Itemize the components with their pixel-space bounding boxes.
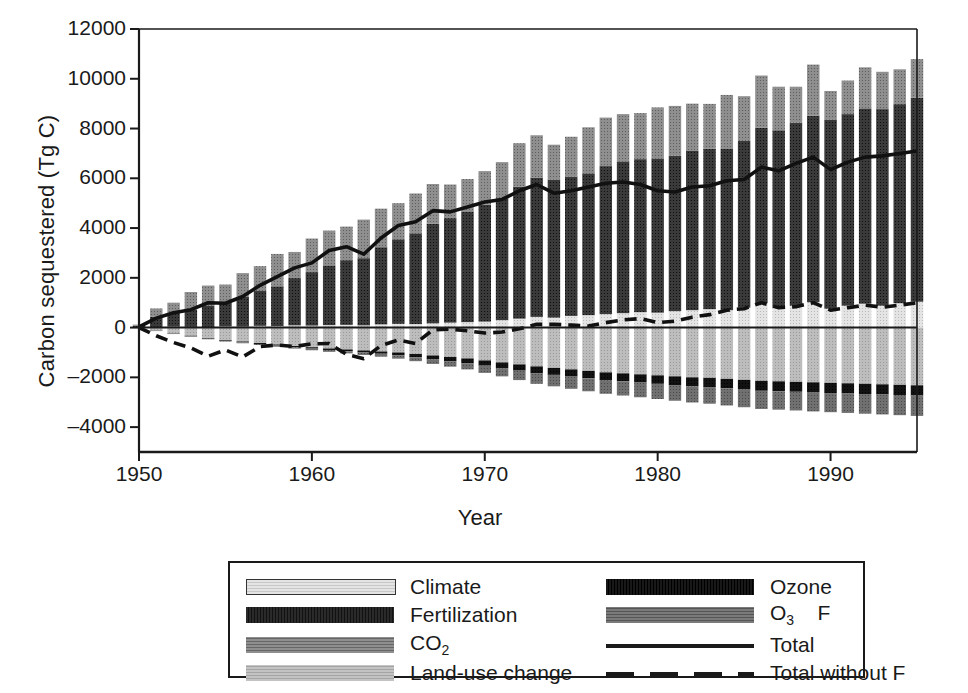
bar-stack bbox=[634, 113, 646, 397]
bar-segment bbox=[807, 382, 819, 392]
bar-stack bbox=[617, 114, 629, 395]
bar-segment bbox=[721, 379, 733, 388]
bar-stack bbox=[790, 87, 802, 411]
bar-segment bbox=[669, 106, 681, 156]
bar-segment bbox=[461, 358, 473, 363]
bar-segment bbox=[288, 328, 300, 346]
bar-stack bbox=[703, 104, 715, 404]
bar-segment bbox=[479, 205, 491, 322]
bar-segment bbox=[807, 116, 819, 303]
bar-segment bbox=[842, 328, 854, 384]
bar-stack bbox=[651, 107, 663, 399]
y-tick-label: 8000 bbox=[0, 116, 126, 140]
bar-segment bbox=[530, 328, 542, 367]
bar-segment bbox=[755, 391, 767, 409]
bar-segment bbox=[582, 378, 594, 391]
bar-segment bbox=[219, 302, 231, 326]
bar-segment bbox=[876, 306, 888, 328]
bar-segment bbox=[479, 360, 491, 365]
bar-segment bbox=[340, 260, 352, 325]
bar-segment bbox=[323, 265, 335, 325]
legend-label-co2: CO2 bbox=[396, 632, 606, 657]
bar-segment bbox=[513, 143, 525, 187]
bar-stack bbox=[721, 95, 733, 406]
bar-segment bbox=[790, 123, 802, 306]
y-tick-label: 6000 bbox=[0, 165, 126, 189]
bar-segment bbox=[409, 357, 421, 361]
bar-segment bbox=[392, 239, 404, 324]
bar-segment bbox=[306, 349, 318, 351]
x-tick-label: 1990 bbox=[786, 462, 876, 486]
x-tick-label: 1960 bbox=[267, 462, 357, 486]
bar-segment bbox=[358, 258, 370, 325]
bar-stack bbox=[600, 118, 612, 394]
legend-swatch-ozone bbox=[606, 579, 754, 595]
bar-segment bbox=[721, 148, 733, 310]
bar-segment bbox=[876, 72, 888, 109]
bar-segment bbox=[721, 328, 733, 379]
bar-stack bbox=[738, 96, 750, 407]
bar-segment bbox=[807, 393, 819, 412]
bar-segment bbox=[703, 149, 715, 309]
bar-segment bbox=[842, 383, 854, 393]
bar-stack bbox=[669, 106, 681, 401]
bar-segment bbox=[703, 378, 715, 387]
bar-stack bbox=[582, 127, 594, 391]
bar-segment bbox=[444, 357, 456, 361]
bar-segment bbox=[893, 395, 905, 415]
bar-stack bbox=[565, 137, 577, 389]
bar-segment bbox=[617, 114, 629, 161]
bar-segment bbox=[185, 336, 197, 337]
x-tick-label: 1950 bbox=[94, 462, 184, 486]
y-tick-label: –2000 bbox=[0, 364, 126, 388]
bar-segment bbox=[772, 130, 784, 308]
legend-swatch-total-line bbox=[606, 637, 754, 653]
bar-segment bbox=[548, 145, 560, 180]
bar-stack bbox=[824, 91, 836, 412]
bar-segment bbox=[219, 340, 231, 341]
legend-label-total-without-f-line: Total without F bbox=[756, 662, 936, 683]
y-tick-label: 2000 bbox=[0, 265, 126, 289]
bar-segment bbox=[651, 158, 663, 312]
bar-series-group bbox=[133, 59, 923, 416]
bar-stack bbox=[202, 286, 214, 340]
plot-area bbox=[139, 29, 917, 452]
bar-segment bbox=[824, 120, 836, 309]
bar-segment bbox=[530, 135, 542, 177]
legend-swatch-co2 bbox=[246, 637, 394, 653]
bar-segment bbox=[392, 355, 404, 358]
bar-stack bbox=[893, 69, 905, 415]
bar-segment bbox=[513, 187, 525, 319]
bar-segment bbox=[721, 95, 733, 149]
bar-segment bbox=[617, 381, 629, 395]
bar-segment bbox=[790, 392, 802, 411]
bar-segment bbox=[669, 311, 681, 327]
bar-segment bbox=[824, 383, 836, 393]
bar-segment bbox=[600, 380, 612, 394]
bar-segment bbox=[755, 128, 767, 303]
x-tick-label: 1980 bbox=[613, 462, 703, 486]
bar-segment bbox=[859, 328, 871, 384]
bar-segment bbox=[288, 278, 300, 325]
bar-segment bbox=[686, 151, 698, 310]
bar-segment bbox=[340, 328, 352, 350]
bar-segment bbox=[340, 227, 352, 261]
bar-segment bbox=[772, 308, 784, 327]
bar-stack bbox=[686, 104, 698, 403]
bar-stack bbox=[772, 87, 784, 410]
bar-segment bbox=[358, 350, 370, 352]
bar-segment bbox=[565, 177, 577, 316]
bar-stack bbox=[842, 81, 854, 413]
y-tick-label: –4000 bbox=[0, 414, 126, 438]
bar-segment bbox=[513, 364, 525, 370]
bar-segment bbox=[582, 127, 594, 173]
legend-label-total-line: Total bbox=[756, 634, 936, 655]
bar-segment bbox=[703, 328, 715, 378]
bar-segment bbox=[548, 180, 560, 318]
bar-segment bbox=[669, 385, 681, 401]
bar-stack bbox=[185, 292, 197, 337]
bar-stack bbox=[271, 254, 283, 347]
bar-segment bbox=[790, 328, 802, 382]
bar-segment bbox=[548, 368, 560, 375]
bar-segment bbox=[755, 381, 767, 391]
